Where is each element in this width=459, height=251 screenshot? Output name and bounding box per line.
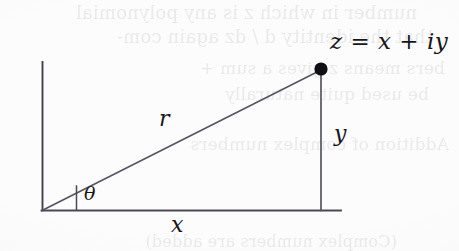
imaginary-part-label-y: y (334, 123, 346, 145)
radius-label-r: r (159, 108, 170, 130)
real-part-label-x: x (171, 214, 183, 236)
figure-canvas: number in which z is any polynomial that… (0, 0, 459, 251)
angle-label-theta: θ (84, 184, 95, 203)
point-z-marker (314, 62, 327, 75)
point-label-z: z = x + iy (330, 30, 448, 53)
